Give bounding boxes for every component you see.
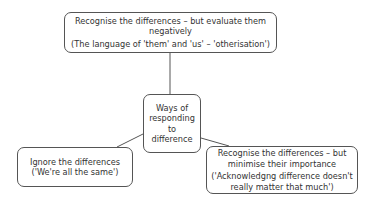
- connector-center-left: [117, 134, 143, 147]
- node-center-line-3: to: [168, 124, 176, 135]
- node-recognise-evaluate-negatively: Recognise the differences – but evaluate…: [64, 12, 277, 53]
- node-top-line-1: Recognise the differences – but evaluate…: [75, 16, 266, 27]
- node-right-line-2: minimise their importance: [228, 159, 336, 170]
- node-center-line-4: difference: [151, 134, 192, 145]
- connector-center-right: [201, 138, 229, 146]
- node-right-note-2: really matter that much'): [230, 182, 333, 193]
- node-left-line-1: Ignore the differences: [30, 157, 120, 168]
- node-ignore-differences: Ignore the differences ('We're all the s…: [17, 147, 133, 187]
- node-right-line-1: Recognise the differences – but: [218, 148, 347, 159]
- node-top-note: (The language of 'them' and 'us' – 'othe…: [71, 39, 270, 50]
- node-top-line-2: negatively: [149, 26, 192, 37]
- node-recognise-minimise: Recognise the differences – but minimise…: [206, 146, 358, 194]
- node-left-note: ('We're all the same'): [31, 167, 118, 178]
- node-right-note-1: ('Acknowledgng difference doesn't: [211, 171, 353, 182]
- node-ways-of-responding: Ways of responding to difference: [143, 94, 201, 153]
- node-center-line-2: responding: [149, 113, 195, 124]
- node-center-line-1: Ways of: [156, 103, 188, 114]
